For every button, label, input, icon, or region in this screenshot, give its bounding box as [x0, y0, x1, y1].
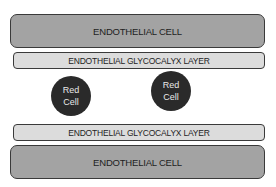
red-cell-1-line1: Red: [63, 84, 80, 96]
bottom-endothelial-cell: ENDOTHELIAL CELL: [10, 145, 265, 179]
red-cell-2: Red Cell: [151, 71, 191, 111]
red-cell-2-line1: Red: [163, 79, 180, 91]
bottom-glycocalyx-layer: ENDOTHELIAL GLYCOCALYX LAYER: [13, 124, 265, 141]
red-cell-1-line2: Cell: [63, 96, 79, 108]
red-cell-2-line2: Cell: [163, 91, 179, 103]
bottom-glycocalyx-label: ENDOTHELIAL GLYCOCALYX LAYER: [68, 128, 209, 138]
top-glycocalyx-label: ENDOTHELIAL GLYCOCALYX LAYER: [68, 56, 209, 66]
top-endothelial-cell-label: ENDOTHELIAL CELL: [93, 26, 182, 37]
bottom-endothelial-cell-label: ENDOTHELIAL CELL: [93, 157, 182, 168]
top-glycocalyx-layer: ENDOTHELIAL GLYCOCALYX LAYER: [13, 52, 265, 69]
top-endothelial-cell: ENDOTHELIAL CELL: [10, 14, 265, 48]
red-cell-1: Red Cell: [51, 76, 91, 116]
